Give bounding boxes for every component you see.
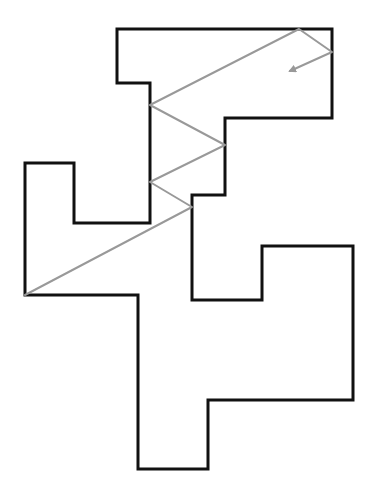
diagram-svg [0,0,377,497]
room-outline [25,29,353,469]
diagram-canvas [0,0,377,497]
